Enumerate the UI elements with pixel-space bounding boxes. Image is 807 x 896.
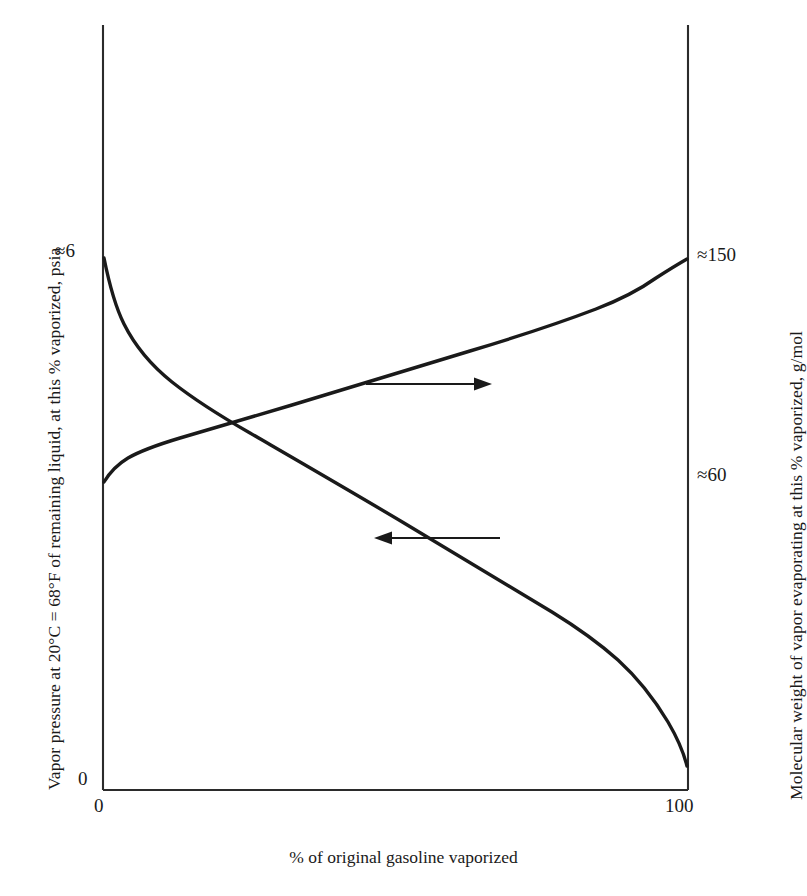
vapor-pressure-curve (104, 258, 687, 766)
arrow-right-icon (366, 378, 492, 391)
x-axis-tick-label-100: 100 (665, 795, 694, 817)
y-axis-right-title: Molecular weight of vapor evaporating at… (786, 331, 807, 800)
molecular-weight-curve (104, 259, 687, 482)
chart-plot-area (0, 0, 807, 896)
y-axis-left-tick-label-bottom: 0 (78, 768, 88, 790)
x-axis-title: % of original gasoline vaporized (0, 847, 807, 868)
x-axis-tick-label-0: 0 (94, 795, 104, 817)
y-axis-right-tick-label-top: ≈150 (697, 244, 736, 266)
chart-figure: ≈6 0 ≈150 ≈60 0 100 Vapor pressure at 20… (0, 0, 807, 896)
y-axis-left-title: Vapor pressure at 20°C = 68°F of remaini… (44, 248, 65, 790)
y-axis-right-tick-label-bottom: ≈60 (697, 464, 726, 486)
